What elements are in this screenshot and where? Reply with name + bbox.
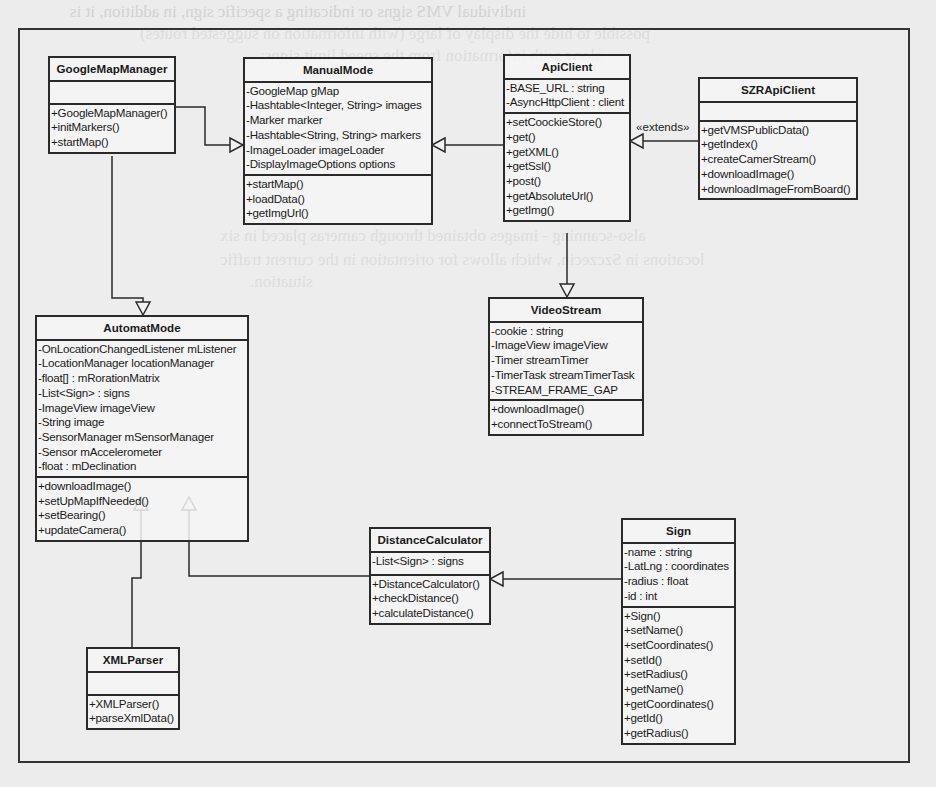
- method: +getRadius(): [624, 726, 733, 741]
- methods-compartment: +startMap() +loadData() +getImgUrl(): [245, 176, 431, 223]
- attribute: -radius : float: [624, 574, 733, 589]
- method: +getImgUrl(): [246, 206, 430, 221]
- inheritance-arrow-icon: [230, 138, 243, 152]
- methods-compartment: +XMLParser() +parseXmlData(): [88, 696, 178, 728]
- method: +getName(): [624, 682, 733, 697]
- class-name: AutomatMode: [37, 317, 247, 341]
- method: +startMap(): [246, 177, 430, 192]
- attribute: -id : int: [624, 589, 733, 604]
- attribute: -ImageView imageView: [38, 401, 246, 416]
- attribute: -GoogleMap gMap: [246, 84, 430, 99]
- attribute: -LocationManager locationManager: [38, 356, 246, 371]
- class-name: ManualMode: [245, 59, 431, 83]
- method: +setCoordinates(): [624, 638, 733, 653]
- method: +connectToStream(): [491, 417, 641, 432]
- method: +GoogleMapManager(): [51, 106, 173, 121]
- attributes-compartment: [88, 673, 178, 696]
- attribute: -ImageLoader imageLoader: [246, 143, 430, 158]
- class-name: SZRApiClient: [700, 79, 856, 103]
- class-google-map-manager[interactable]: GoogleMapManager +GoogleMapManager() +in…: [48, 56, 176, 154]
- method: +createCamerStream(): [701, 152, 855, 167]
- method: +getXML(): [506, 145, 628, 160]
- attribute: -LatLng : coordinates: [624, 559, 733, 574]
- class-name: GoogleMapManager: [50, 58, 174, 82]
- attribute: -float[] : mRorationMatrix: [38, 371, 246, 386]
- class-distance-calculator[interactable]: DistanceCalculator -List<Sign> : signs +…: [369, 527, 491, 625]
- attributes-compartment: -BASE_URL : string -AsyncHttpClient : cl…: [505, 80, 629, 114]
- method: +getId(): [624, 711, 733, 726]
- class-name: VideoStream: [490, 299, 642, 323]
- methods-compartment: +downloadImage() +connectToStream(): [490, 401, 642, 433]
- method: +getAbsoluteUrl(): [506, 189, 628, 204]
- gmm-to-automatmode-line: [112, 156, 143, 302]
- method: +setCoockieStore(): [506, 115, 628, 130]
- method: +downloadImage(): [701, 167, 855, 182]
- attributes-compartment: -List<Sign> : signs: [371, 553, 489, 576]
- method: +post(): [506, 174, 628, 189]
- attribute: -name : string: [624, 545, 733, 560]
- attribute: -Marker marker: [246, 113, 430, 128]
- method: +updateCamera(): [38, 523, 246, 538]
- class-szr-api-client[interactable]: SZRApiClient +getVMSPublicData() +getInd…: [698, 77, 858, 200]
- method: +getVMSPublicData(): [701, 123, 855, 138]
- attribute: -List<Sign> : signs: [372, 554, 488, 569]
- gmm-to-manualmode-line: [175, 107, 230, 145]
- method: +checkDistance(): [372, 591, 488, 606]
- attributes-compartment: [700, 103, 856, 122]
- method: +setRadius(): [624, 667, 733, 682]
- attribute: -SensorManager mSensorManager: [38, 430, 246, 445]
- method: +initMarkers(): [51, 120, 173, 135]
- method: +downloadImage(): [491, 402, 641, 417]
- class-api-client[interactable]: ApiClient -BASE_URL : string -AsyncHttpC…: [503, 54, 631, 222]
- methods-compartment: +GoogleMapManager() +initMarkers() +star…: [50, 105, 174, 152]
- method: +downloadImageFromBoard(): [701, 182, 855, 197]
- attributes-compartment: -cookie : string -ImageView imageView -T…: [490, 323, 642, 402]
- method: +Sign(): [624, 609, 733, 624]
- attribute: -Timer streamTimer: [491, 353, 641, 368]
- method: +calculateDistance(): [372, 606, 488, 621]
- method: +get(): [506, 130, 628, 145]
- inheritance-arrow-icon: [630, 134, 643, 148]
- attributes-compartment: -name : string -LatLng : coordinates -ra…: [623, 544, 734, 608]
- inheritance-arrow-icon: [560, 284, 574, 297]
- methods-compartment: +getVMSPublicData() +getIndex() +createC…: [700, 122, 856, 199]
- attribute: -String image: [38, 415, 246, 430]
- inheritance-arrow-icon: [136, 302, 150, 315]
- extends-stereotype-label: «extends»: [636, 120, 690, 133]
- attribute: -ImageView imageView: [491, 338, 641, 353]
- attribute: -Sensor mAccelerometer: [38, 445, 246, 460]
- class-automat-mode[interactable]: AutomatMode -OnLocationChangedListener m…: [35, 315, 249, 542]
- attributes-compartment: -GoogleMap gMap -Hashtable<Integer, Stri…: [245, 83, 431, 176]
- class-name: DistanceCalculator: [371, 529, 489, 553]
- method: +startMap(): [51, 135, 173, 150]
- attribute: -float : mDeclination: [38, 459, 246, 474]
- class-name: Sign: [623, 520, 734, 544]
- method: +parseXmlData(): [89, 711, 177, 726]
- class-sign[interactable]: Sign -name : string -LatLng : coordinate…: [621, 518, 736, 745]
- class-name: XMLParser: [88, 649, 178, 673]
- attribute: -AsyncHttpClient : client: [506, 95, 628, 110]
- attribute: -DisplayImageOptions options: [246, 157, 430, 172]
- class-video-stream[interactable]: VideoStream -cookie : string -ImageView …: [488, 297, 644, 436]
- class-xml-parser[interactable]: XMLParser +XMLParser() +parseXmlData(): [86, 647, 180, 730]
- method: +getIndex(): [701, 137, 855, 152]
- methods-compartment: +downloadImage() +setUpMapIfNeeded() +se…: [37, 478, 247, 540]
- method: +setUpMapIfNeeded(): [38, 494, 246, 509]
- methods-compartment: +setCoockieStore() +get() +getXML() +get…: [505, 114, 629, 220]
- method: +XMLParser(): [89, 697, 177, 712]
- class-name: ApiClient: [505, 56, 629, 80]
- methods-compartment: +DistanceCalculator() +checkDistance() +…: [371, 576, 489, 623]
- inheritance-arrow-icon: [490, 572, 503, 586]
- attribute: -cookie : string: [491, 324, 641, 339]
- attribute: -OnLocationChangedListener mListener: [38, 342, 246, 357]
- attribute: -Hashtable<Integer, String> images: [246, 98, 430, 113]
- attribute: -List<Sign> : signs: [38, 386, 246, 401]
- methods-compartment: +Sign() +setName() +setCoordinates() +se…: [623, 608, 734, 743]
- method: +setName(): [624, 623, 733, 638]
- class-manual-mode[interactable]: ManualMode -GoogleMap gMap -Hashtable<In…: [243, 57, 433, 225]
- method: +getSsl(): [506, 159, 628, 174]
- method: +setId(): [624, 653, 733, 668]
- method: +DistanceCalculator(): [372, 577, 488, 592]
- attribute: -BASE_URL : string: [506, 81, 628, 96]
- inheritance-arrow-icon: [432, 138, 445, 152]
